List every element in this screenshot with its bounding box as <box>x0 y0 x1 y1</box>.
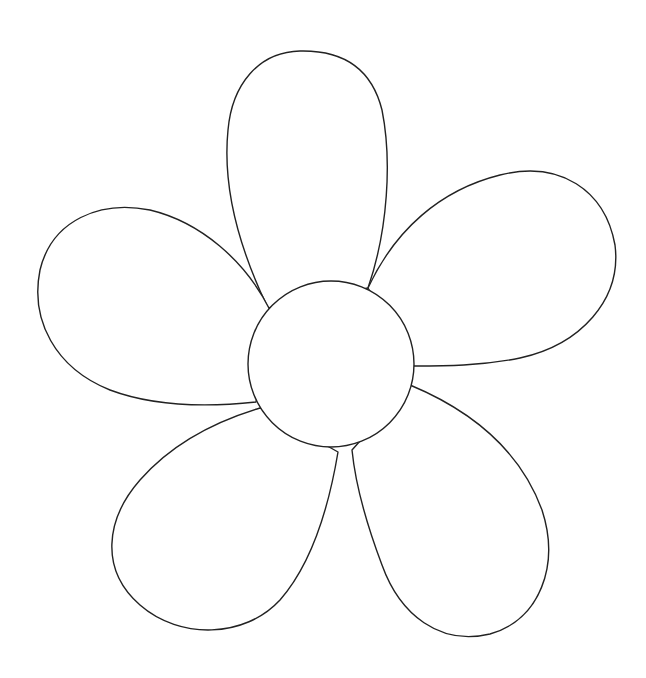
petal-top <box>227 51 387 308</box>
flower-center <box>248 281 414 447</box>
flower-drawing <box>0 0 646 678</box>
petal-left <box>38 208 270 405</box>
